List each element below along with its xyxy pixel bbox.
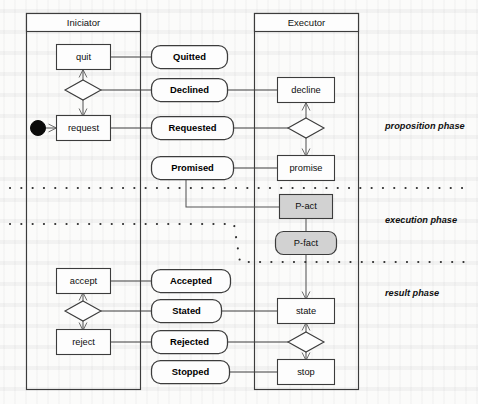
initial-node-dot: [31, 121, 46, 136]
action-node-reject[interactable]: reject: [57, 330, 111, 355]
state-label-stated: Stated: [172, 305, 201, 316]
action-label-accept: accept: [70, 276, 98, 286]
state-node-stopped[interactable]: Stopped: [152, 361, 230, 384]
action-node-p-act[interactable]: P-act: [280, 195, 333, 219]
state-label-promised: Promised: [171, 162, 214, 173]
state-label-stopped: Stopped: [172, 366, 210, 377]
state-label-declined: Declined: [170, 84, 209, 95]
action-label-reject: reject: [72, 337, 95, 347]
state-label-requested: Requested: [169, 122, 217, 133]
activity-diagram: Iniciator Executor: [0, 0, 478, 404]
state-label-quitted: Quitted: [173, 51, 206, 62]
state-node-promised[interactable]: Promised: [152, 157, 234, 180]
action-node-promise[interactable]: promise: [278, 156, 335, 181]
action-node-request[interactable]: request: [57, 116, 111, 141]
state-label-rejected: Rejected: [170, 336, 209, 347]
diagram-canvas: Iniciator Executor: [0, 0, 478, 404]
swimlane-title-initiator: Iniciator: [67, 17, 100, 28]
decision-initiator-proposition[interactable]: [65, 80, 101, 100]
action-node-accept[interactable]: accept: [57, 269, 111, 294]
state-node-stated[interactable]: Stated: [152, 300, 222, 323]
action-node-quit[interactable]: quit: [57, 45, 111, 70]
swimlane-title-executor: Executor: [288, 17, 326, 28]
action-label-stop: stop: [297, 367, 315, 377]
action-label-quit: quit: [76, 52, 91, 62]
action-node-stop[interactable]: stop: [278, 360, 335, 385]
decision-executor-proposition[interactable]: [288, 118, 324, 138]
state-node-p-fact[interactable]: P-fact: [276, 232, 337, 255]
action-node-decline[interactable]: decline: [278, 78, 335, 103]
state-node-declined[interactable]: Declined: [152, 79, 228, 102]
state-node-quitted[interactable]: Quitted: [152, 46, 228, 69]
phase-separator-execution-result: [10, 224, 468, 262]
action-label-promise: promise: [289, 163, 322, 173]
action-label-decline: decline: [291, 85, 320, 95]
action-node-state[interactable]: state: [278, 299, 335, 324]
phase-label-result: result phase: [385, 288, 439, 298]
connector-group: [101, 57, 300, 372]
state-node-requested[interactable]: Requested: [152, 117, 234, 140]
state-node-rejected[interactable]: Rejected: [152, 331, 228, 354]
action-label-state: state: [296, 306, 316, 316]
decision-initiator-result[interactable]: [65, 301, 101, 321]
state-node-accepted[interactable]: Accepted: [152, 270, 231, 293]
phase-label-execution: execution phase: [385, 215, 457, 225]
action-label-request: request: [68, 123, 99, 133]
action-label-p-act: P-act: [295, 201, 317, 211]
phase-label-proposition: proposition phase: [384, 121, 465, 131]
state-label-accepted: Accepted: [170, 275, 212, 286]
state-label-p-fact: P-fact: [294, 238, 319, 248]
decision-executor-result[interactable]: [288, 332, 324, 352]
